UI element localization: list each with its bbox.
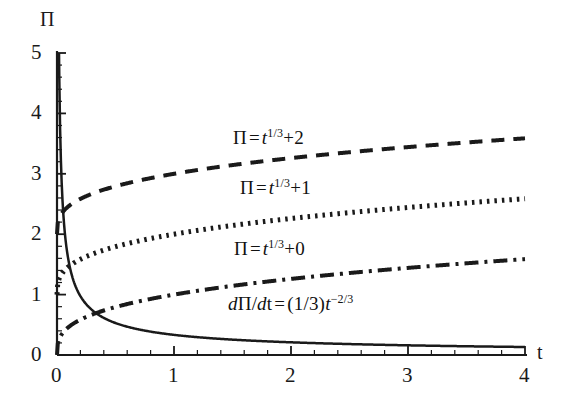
annotation-exponent: 1/3 bbox=[268, 237, 284, 251]
y-tick-label-2: 2 bbox=[31, 221, 42, 246]
annotation-exponent: 1/3 bbox=[267, 126, 283, 140]
curve-annotation-derivative: dΠ/dt=(1/3)t−2/3 bbox=[228, 293, 354, 315]
annotation-equals: = bbox=[272, 293, 287, 314]
annotation-equals: = bbox=[248, 238, 263, 259]
y-tick-label-5: 5 bbox=[31, 40, 42, 65]
annotation-pi-symbol: Π bbox=[240, 177, 254, 198]
annotation-d-denominator: d bbox=[257, 293, 267, 314]
annotation-exponent: −2/3 bbox=[331, 292, 354, 306]
annotation-pi-symbol: Π bbox=[233, 127, 247, 148]
x-tick-label-1: 1 bbox=[168, 363, 179, 388]
annotation-equals: = bbox=[254, 177, 269, 198]
y-axis-title: Π bbox=[40, 8, 54, 31]
x-axis-title: t bbox=[537, 341, 543, 364]
curve-annotation-dashdot: Π=t1/3+0 bbox=[234, 238, 305, 260]
chart-plot-area bbox=[0, 0, 564, 404]
annotation-exponent: 1/3 bbox=[274, 176, 290, 190]
y-tick-label-1: 1 bbox=[31, 282, 42, 307]
x-tick-label-0: 0 bbox=[51, 363, 62, 388]
x-tick-label-4: 4 bbox=[519, 363, 530, 388]
annotation-offset: +0 bbox=[284, 238, 305, 259]
x-tick-label-2: 2 bbox=[285, 363, 296, 388]
curve-annotation-dotted: Π=t1/3+1 bbox=[240, 177, 311, 199]
annotation-equals: = bbox=[247, 127, 262, 148]
chart-figure: 5 4 3 2 1 0 0 1 2 3 4 Π t Π=t1/3+2 Π=t1/… bbox=[0, 0, 564, 404]
annotation-offset: +2 bbox=[283, 127, 304, 148]
annotation-pi-symbol: Π bbox=[234, 238, 248, 259]
curve-annotation-dashed: Π=t1/3+2 bbox=[233, 127, 304, 149]
annotation-offset: +1 bbox=[290, 177, 311, 198]
x-tick-label-3: 3 bbox=[402, 363, 413, 388]
y-tick-label-3: 3 bbox=[31, 161, 42, 186]
annotation-pi-symbol: Π bbox=[238, 293, 252, 314]
annotation-d-numerator: d bbox=[228, 293, 238, 314]
annotation-fraction: (1/3) bbox=[287, 293, 325, 314]
y-tick-label-4: 4 bbox=[31, 100, 42, 125]
y-tick-label-0: 0 bbox=[31, 342, 42, 367]
